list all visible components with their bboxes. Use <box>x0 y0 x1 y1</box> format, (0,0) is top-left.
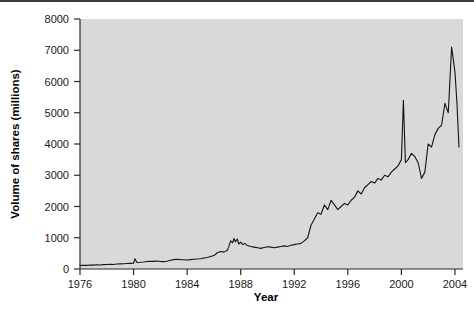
y-axis-tick-labels: 010002000300040005000600070008000 <box>45 13 69 275</box>
x-axis: 19761980198419881992199620002004 <box>68 269 467 290</box>
chart-figure: 010002000300040005000600070008000 197619… <box>0 0 474 311</box>
y-tick-label: 7000 <box>45 44 69 56</box>
x-tick-label: 1992 <box>282 278 306 290</box>
x-tick-label: 2000 <box>389 278 413 290</box>
x-tick-label: 1980 <box>121 278 145 290</box>
volume-of-shares-line-chart: 010002000300040005000600070008000 197619… <box>0 0 474 311</box>
x-axis-tick-labels: 19761980198419881992199620002004 <box>68 278 467 290</box>
y-tick-label: 8000 <box>45 13 69 25</box>
y-axis-title: Volume of shares (millions) <box>9 69 21 218</box>
x-tick-label: 1988 <box>228 278 252 290</box>
y-axis: 010002000300040005000600070008000 <box>45 13 80 275</box>
plot-background <box>80 19 463 269</box>
y-tick-label: 3000 <box>45 169 69 181</box>
y-tick-label: 2000 <box>45 201 69 213</box>
x-tick-label: 1984 <box>175 278 199 290</box>
y-tick-label: 5000 <box>45 107 69 119</box>
x-tick-label: 1996 <box>336 278 360 290</box>
x-axis-title: Year <box>254 291 279 303</box>
y-tick-label: 1000 <box>45 232 69 244</box>
y-tick-label: 0 <box>63 263 69 275</box>
x-tick-label: 1976 <box>68 278 92 290</box>
x-tick-label: 2004 <box>443 278 467 290</box>
y-tick-label: 6000 <box>45 76 69 88</box>
x-axis-ticks <box>80 269 455 275</box>
y-axis-ticks <box>74 19 80 269</box>
y-tick-label: 4000 <box>45 138 69 150</box>
